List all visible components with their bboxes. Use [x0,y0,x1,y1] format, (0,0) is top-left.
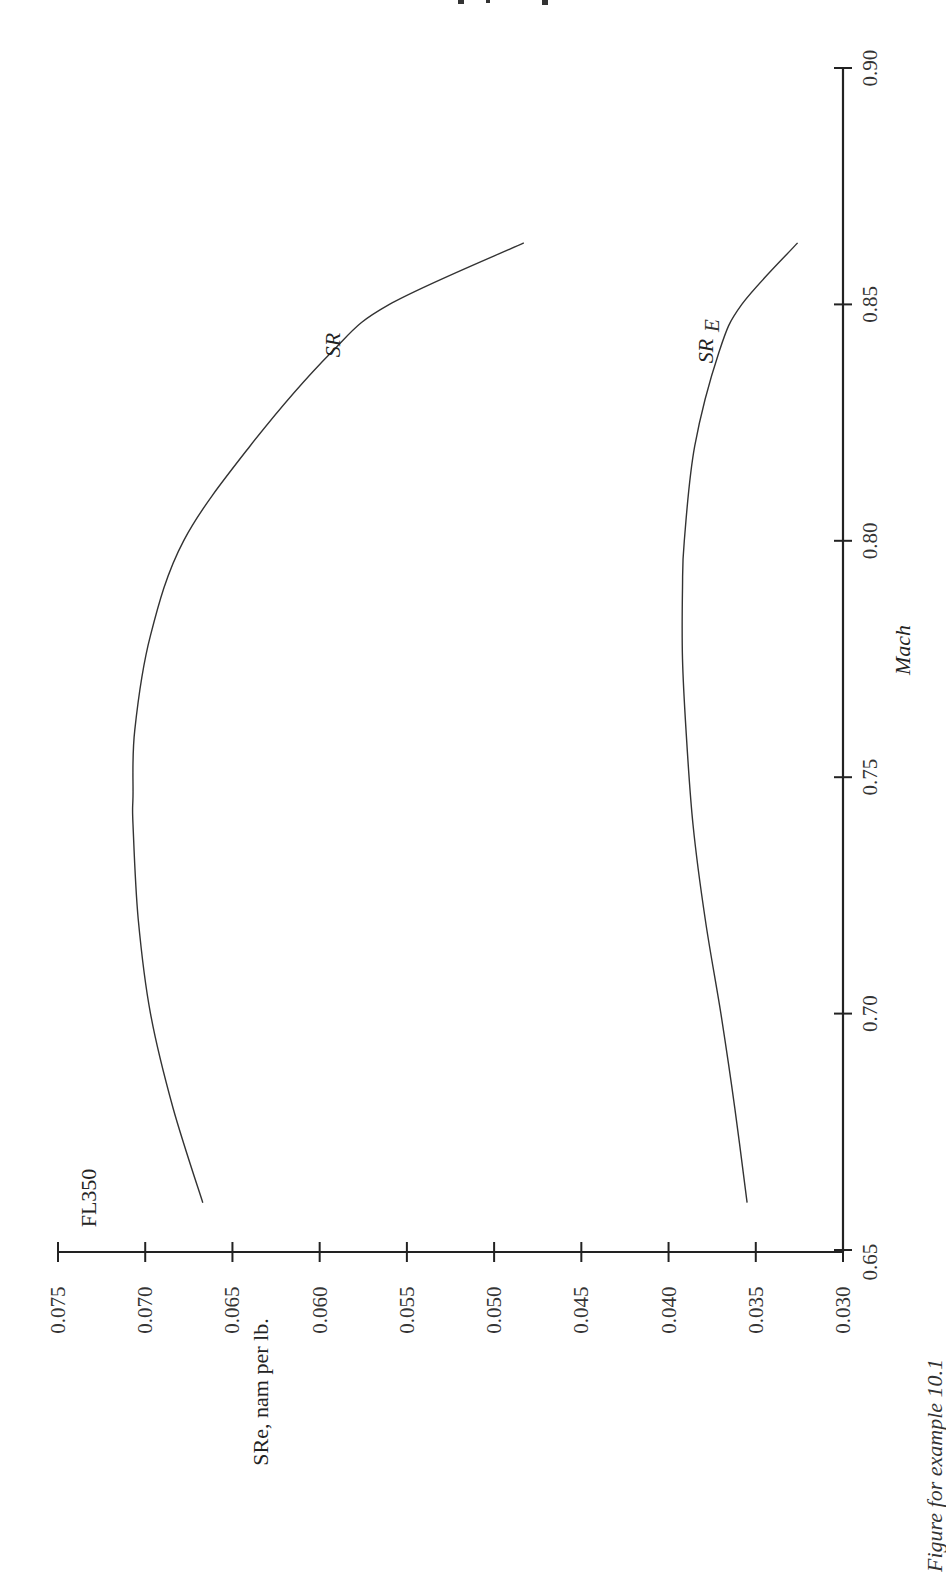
sr-axis-ticks: 0.0750.0700.0650.0600.0550.0500.0450.040… [46,1242,855,1334]
mach-tick-label: 0.70 [858,995,882,1032]
sre-curve-label: SR E [693,319,724,363]
mach-tick-label: 0.80 [858,522,882,559]
mach-tick-label: 0.65 [858,1244,882,1281]
sr-curve-label: SR [320,332,345,357]
sr-tick-label: 0.035 [744,1286,768,1333]
sr-tick-label: 0.050 [482,1286,506,1333]
mach-tick-label: 0.90 [858,50,882,87]
figure-caption: Figure for example 10.1 [922,1359,946,1572]
sr-tick-label: 0.055 [395,1286,419,1333]
mach-axis-title: Mach [890,625,915,676]
sr-tick-label: 0.030 [831,1286,855,1333]
flight-level-annotation: FL350 [76,1169,101,1228]
sr-tick-label: 0.075 [46,1286,70,1333]
mach-axis-ticks: 0.650.700.750.800.850.90 [834,50,882,1281]
chart: 0.650.700.750.800.850.90 0.0750.0700.065… [0,0,946,1572]
sr-tick-label: 0.060 [308,1286,332,1333]
mach-tick-label: 0.85 [858,286,882,323]
sr-curve [133,243,524,1203]
sr-tick-label: 0.045 [569,1286,593,1333]
mach-tick-label: 0.75 [858,759,882,796]
sr-tick-label: 0.040 [657,1286,681,1333]
svg-text:SR: SR [693,338,718,363]
sre-curve [682,243,797,1203]
sr-tick-label: 0.070 [133,1286,157,1333]
sr-axis-title: SRe, nam per lb. [248,1318,273,1465]
cropped-header-fragment [458,0,548,5]
sr-tick-label: 0.065 [220,1286,244,1333]
svg-text:E: E [700,319,724,333]
